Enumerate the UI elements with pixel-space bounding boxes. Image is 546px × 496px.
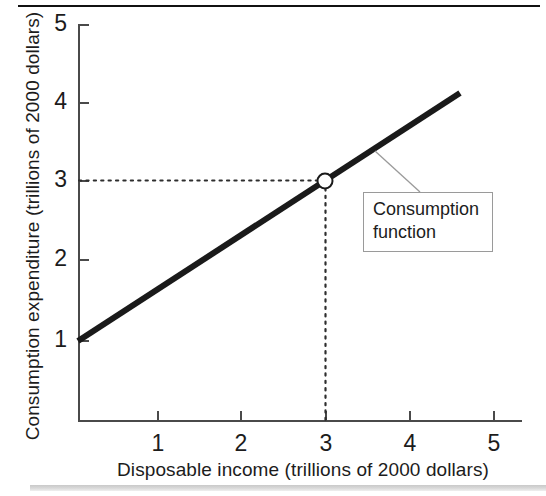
annotation-line-2: function xyxy=(373,221,492,244)
figure-container: 5 4 3 2 1 1 2 3 4 5 Consumpti xyxy=(0,0,546,496)
x-axis-title: Disposable income (trillions of 2000 dol… xyxy=(78,459,528,481)
annotation-line-1: Consumption xyxy=(373,198,492,221)
annotation-callout: Consumption function xyxy=(363,192,493,252)
annotation-leader-line xyxy=(375,151,420,192)
y-axis-title: Consumption expenditure (trillions of 20… xyxy=(22,11,44,441)
equilibrium-point-marker xyxy=(318,174,333,189)
plot-area: 5 4 3 2 1 1 2 3 4 5 Consumpti xyxy=(0,0,546,496)
bottom-divider-bar xyxy=(30,485,546,491)
